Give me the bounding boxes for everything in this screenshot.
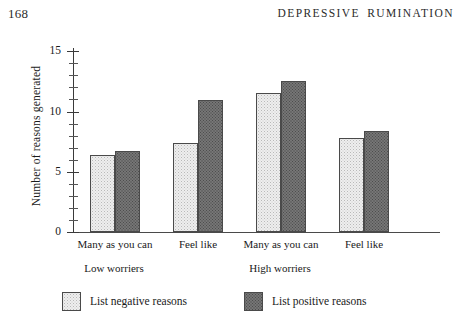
y-minor-tick-8 xyxy=(69,136,78,137)
running-head: DEPRESSIVE RUMINATION xyxy=(278,7,454,19)
y-minor-tick-11 xyxy=(69,99,78,100)
x-label-low-many: Many as you can xyxy=(60,238,170,250)
bar-chart-figure: Number of reasons generated 15 10 5 0 xyxy=(0,30,464,323)
y-tick-label-15: 15 xyxy=(39,43,61,58)
legend-entry-positive: List positive reasons xyxy=(244,291,367,311)
legend-label-negative: List negative reasons xyxy=(90,295,187,307)
plot-area: 15 10 5 0 xyxy=(73,30,440,235)
group-label-high-worriers: High worriers xyxy=(225,262,335,274)
y-minor-tick-13 xyxy=(69,75,78,76)
page-number: 168 xyxy=(8,6,28,22)
legend-swatch-positive-icon xyxy=(244,292,263,311)
y-tick-10: 10 xyxy=(67,112,79,113)
y-tick-label-0: 0 xyxy=(39,224,61,239)
bar-low-feel-negative xyxy=(173,143,198,232)
bar-low-many-positive xyxy=(115,151,140,232)
page-header: 168 DEPRESSIVE RUMINATION xyxy=(0,6,464,26)
y-minor-tick-14 xyxy=(69,63,78,64)
x-axis-line xyxy=(73,232,440,233)
y-minor-tick-3 xyxy=(69,196,78,197)
bar-high-feel-positive xyxy=(364,131,389,232)
y-minor-tick-1 xyxy=(69,220,78,221)
y-minor-tick-12 xyxy=(69,87,78,88)
y-minor-tick-6 xyxy=(69,160,78,161)
bar-high-many-negative xyxy=(256,93,281,232)
bar-high-feel-negative xyxy=(339,138,364,232)
y-tick-15: 15 xyxy=(67,51,79,52)
bar-low-feel-positive xyxy=(198,100,223,232)
x-label-high-feel: Feel like xyxy=(321,238,407,250)
y-minor-tick-7 xyxy=(69,148,78,149)
legend-entry-negative: List negative reasons xyxy=(62,291,187,311)
y-axis-label: Number of reasons generated xyxy=(30,36,42,236)
y-tick-label-10: 10 xyxy=(39,104,61,119)
y-tick-5: 5 xyxy=(67,172,79,173)
legend-swatch-negative-icon xyxy=(62,292,81,311)
y-minor-tick-2 xyxy=(69,208,78,209)
bar-high-many-positive xyxy=(281,81,306,232)
y-tick-label-5: 5 xyxy=(39,164,61,179)
legend-label-positive: List positive reasons xyxy=(272,295,367,307)
y-minor-tick-9 xyxy=(69,124,78,125)
chart-legend: List negative reasons List positive reas… xyxy=(0,291,464,317)
group-label-low-worriers: Low worriers xyxy=(59,262,169,274)
bar-low-many-negative xyxy=(90,155,115,232)
y-tick-0: 0 xyxy=(67,232,79,233)
x-label-high-many: Many as you can xyxy=(226,238,336,250)
y-minor-tick-4 xyxy=(69,184,78,185)
